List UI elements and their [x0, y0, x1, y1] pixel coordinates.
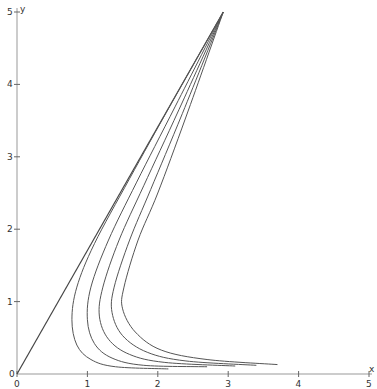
y-tick-label: 3 [7, 152, 13, 162]
chart: 012345 12345 x y 0 [0, 0, 377, 389]
origin-y-label: 0 [9, 369, 15, 379]
x-axis-label: x [369, 364, 375, 374]
series-curve-3 [99, 12, 235, 366]
y-ticks: 12345 [7, 7, 20, 307]
plot-series [17, 12, 277, 374]
y-tick-label: 1 [7, 297, 13, 307]
y-tick-label: 4 [7, 79, 13, 89]
x-tick-label: 5 [366, 379, 372, 389]
x-tick-label: 0 [14, 379, 20, 389]
x-tick-label: 2 [155, 379, 161, 389]
y-tick-label: 5 [7, 7, 13, 17]
y-axis-label: y [20, 4, 26, 14]
series-curve-2 [87, 12, 223, 367]
x-tick-label: 4 [296, 379, 302, 389]
x-tick-label: 1 [84, 379, 90, 389]
series-curve-1 [72, 12, 223, 369]
x-tick-label: 3 [225, 379, 231, 389]
y-tick-label: 2 [7, 224, 13, 234]
